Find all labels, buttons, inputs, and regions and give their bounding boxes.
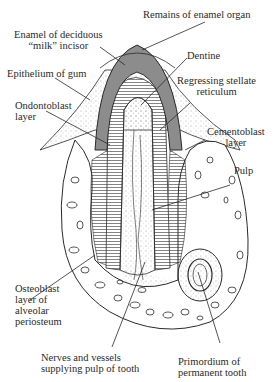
label-odontoblast: Ondontoblast layer — [15, 100, 72, 122]
label-stellate-line1: Regressing stellate — [177, 75, 256, 86]
permanent-tooth-primordium — [178, 249, 222, 301]
label-enamel-line1: Enamel of deciduous — [14, 29, 103, 40]
label-dentine: Dentine — [187, 50, 220, 61]
label-odontoblast-line2: layer — [15, 111, 72, 122]
label-primordium-line2: permanent tooth — [178, 367, 247, 378]
label-pulp: Pulp — [234, 165, 253, 176]
label-osteoblast: Osteoblast layer of alveolar periosteum — [15, 283, 62, 327]
label-cementoblast: Cementoblast layer — [207, 126, 265, 148]
label-primordium-line1: Primordium of — [178, 356, 247, 367]
label-nerves-vessels: Nerves and vessels supplying pulp of too… — [41, 352, 139, 374]
label-nerves-line2: supplying pulp of tooth — [41, 363, 139, 374]
label-remains-enamel-organ: Remains of enamel organ — [143, 9, 250, 20]
label-stellate-line2: reticulum — [177, 86, 256, 97]
label-osteoblast-line2: layer of — [15, 294, 62, 305]
label-primordium: Primordium of permanent tooth — [178, 356, 247, 378]
label-enamel: Enamel of deciduous “milk” incisor — [14, 29, 103, 51]
label-osteoblast-line4: periosteum — [15, 316, 62, 327]
label-stellate-reticulum: Regressing stellate reticulum — [177, 75, 256, 97]
label-odontoblast-line1: Ondontoblast — [15, 100, 72, 111]
label-osteoblast-line3: alveolar — [15, 305, 62, 316]
label-cementoblast-line2: layer — [207, 137, 265, 148]
label-epithelium: Epithelium of gum — [7, 68, 86, 79]
label-osteoblast-line1: Osteoblast — [15, 283, 62, 294]
pulp — [120, 98, 155, 281]
label-cementoblast-line1: Cementoblast — [207, 126, 265, 137]
label-nerves-line1: Nerves and vessels — [41, 352, 139, 363]
label-enamel-line2: “milk” incisor — [14, 40, 103, 51]
